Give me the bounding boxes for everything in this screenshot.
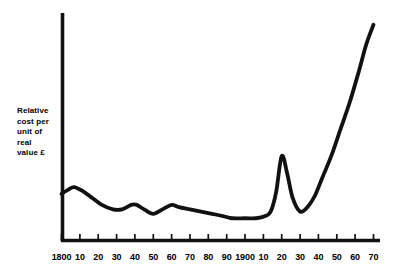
x-tick-label-1960: 60 [350, 252, 360, 262]
x-tick-label-1860: 60 [167, 252, 177, 262]
x-tick-label-1930: 30 [295, 252, 305, 262]
x-tick-label-1880: 80 [203, 252, 213, 262]
x-tick-label-1910: 10 [258, 252, 268, 262]
chart-figure: Relative cost per unit of real value £ 1… [0, 0, 401, 275]
x-tick-label-1840: 40 [130, 252, 140, 262]
x-tick-label-1850: 50 [148, 252, 158, 262]
x-tick-label-1810: 10 [75, 252, 85, 262]
x-tick-label-1970: 70 [369, 252, 379, 262]
x-tick-label-1800: 1800 [52, 252, 72, 262]
x-tick-label-1890: 90 [222, 252, 232, 262]
x-tick-label-1820: 20 [93, 252, 103, 262]
x-tick-label-1920: 20 [277, 252, 287, 262]
x-tick-label-1950: 50 [332, 252, 342, 262]
data-series-line [62, 25, 374, 219]
x-tick-label-1870: 70 [185, 252, 195, 262]
x-tick-label-1830: 30 [112, 252, 122, 262]
x-tick-label-1940: 40 [313, 252, 323, 262]
x-tick-label-1900: 1900 [235, 252, 255, 262]
y-axis-caption: Relative cost per unit of real value £ [17, 106, 63, 159]
